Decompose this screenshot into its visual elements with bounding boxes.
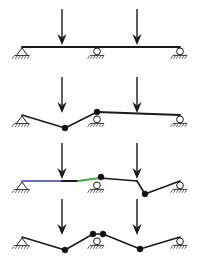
hatch-tick [21, 190, 23, 193]
hatch-tick [15, 56, 17, 59]
point-load-arrow-load-1 [57, 199, 66, 235]
roller-ground-hatch [171, 55, 187, 58]
plastic-hinge-dot [62, 125, 68, 131]
hatch-tick [93, 245, 95, 248]
hatch-tick [173, 55, 175, 58]
pin-triangle [17, 116, 28, 124]
hatch-tick [15, 190, 17, 193]
hatch-tick [176, 245, 178, 248]
hatch-tick [90, 189, 92, 192]
beam-segment [65, 112, 97, 128]
hatch-tick [102, 123, 104, 126]
pin-ground-hatch [12, 190, 29, 193]
hatch-tick [18, 124, 20, 127]
hatch-tick [96, 189, 98, 192]
hatch-tick [21, 56, 23, 59]
hatch-tick [182, 245, 184, 248]
hatch-tick [173, 123, 175, 126]
hatch-tick [96, 123, 98, 126]
roller-circle [177, 116, 184, 123]
hatch-tick [90, 55, 92, 58]
plastic-hinge-dot [137, 246, 143, 252]
hatch-tick [171, 55, 173, 58]
hatch-tick [21, 124, 23, 127]
roller-ground-hatch [171, 123, 187, 126]
roller-ground-hatch [88, 123, 104, 126]
hatch-tick [182, 123, 184, 126]
hatch-tick [96, 55, 98, 58]
hatch-tick [12, 190, 14, 193]
hatch-tick [99, 123, 101, 126]
hatch-tick [18, 56, 20, 59]
hatch-tick [24, 56, 26, 59]
beam-mechanism-figure [0, 0, 199, 265]
panel-undeformed-beam [12, 9, 187, 59]
roller-circle [177, 182, 184, 189]
support-roller-support-right [171, 116, 187, 127]
roller-circle [94, 116, 101, 123]
roller-circle [94, 48, 101, 55]
hatch-tick [88, 55, 90, 58]
panel-left-span-mechanism [12, 77, 187, 131]
hatch-tick [99, 245, 101, 248]
beam-segment [22, 237, 65, 250]
beam-segment [100, 178, 137, 181]
support-pin-support-left [12, 238, 29, 249]
hatch-tick [179, 189, 181, 192]
hatch-tick [27, 190, 29, 193]
pin-ground-hatch [12, 246, 29, 249]
hatch-tick [90, 245, 92, 248]
roller-ground-hatch [88, 245, 104, 248]
hatch-tick [185, 123, 187, 126]
plastic-hinge-dot [100, 231, 106, 237]
hatch-tick [176, 123, 178, 126]
support-roller-support-mid [88, 182, 104, 193]
hatch-tick [15, 124, 17, 127]
support-pin-support-left [12, 116, 29, 127]
hatch-tick [102, 189, 104, 192]
hatch-tick [179, 123, 181, 126]
support-roller-support-mid [88, 48, 104, 59]
point-load-arrow-load-1 [57, 9, 66, 45]
beam-diagram-canvas [0, 0, 199, 265]
panel-right-span-mechanism [12, 143, 187, 197]
beam-segment [145, 181, 180, 194]
hatch-tick [179, 55, 181, 58]
pin-triangle [17, 182, 28, 190]
pin-triangle [17, 238, 28, 246]
hatch-tick [176, 55, 178, 58]
hatch-tick [12, 246, 14, 249]
hatch-tick [102, 55, 104, 58]
point-load-arrow-load-2 [132, 199, 141, 235]
hatch-tick [21, 246, 23, 249]
roller-circle [94, 182, 101, 189]
support-pin-support-left [12, 182, 29, 193]
hatch-tick [12, 56, 14, 59]
beam-segment [22, 115, 65, 128]
hatch-tick [185, 189, 187, 192]
roller-ground-hatch [171, 245, 187, 248]
point-load-arrow-load-2 [132, 143, 141, 179]
beam-segment [97, 112, 180, 115]
hatch-tick [102, 245, 104, 248]
hatch-tick [176, 189, 178, 192]
hatch-tick [185, 245, 187, 248]
plastic-hinge-dot [142, 191, 148, 197]
beam-segment [103, 234, 140, 249]
hatch-tick [12, 124, 14, 127]
hatch-tick [24, 246, 26, 249]
support-roller-support-mid [88, 116, 104, 127]
support-roller-support-right [171, 48, 187, 59]
pin-ground-hatch [12, 56, 29, 59]
roller-ground-hatch [88, 55, 104, 58]
hatch-tick [93, 189, 95, 192]
hatch-tick [27, 246, 29, 249]
roller-ground-hatch [171, 189, 187, 192]
beam-segment [140, 237, 180, 249]
hatch-tick [171, 189, 173, 192]
hatch-tick [93, 55, 95, 58]
point-load-arrow-load-1 [57, 77, 66, 113]
hatch-tick [182, 55, 184, 58]
plastic-hinge-dot [62, 247, 68, 253]
hatch-tick [182, 189, 184, 192]
